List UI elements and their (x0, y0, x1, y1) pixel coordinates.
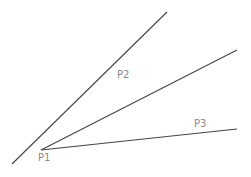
label-p1: P1 (38, 152, 50, 163)
diagram-canvas: P1 P2 P3 (0, 0, 251, 177)
line-p1-middle (41, 50, 237, 150)
label-p3: P3 (194, 118, 206, 129)
line-p1-p2 (12, 12, 167, 164)
line-p1-p3 (41, 129, 237, 150)
label-p2: P2 (117, 69, 129, 80)
